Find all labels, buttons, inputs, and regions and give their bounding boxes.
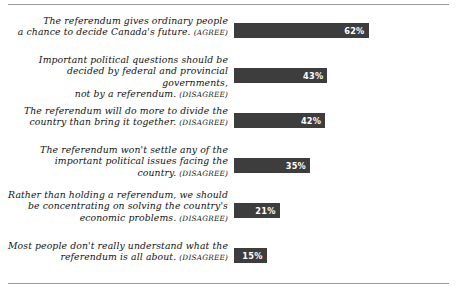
row-label-tag: (AGREE) <box>194 28 228 37</box>
row-label-line-1: Important political questions should be <box>39 54 228 65</box>
referendum-opinion-bar-chart: The referendum gives ordinary people a c… <box>0 0 457 290</box>
bar: 42% <box>234 113 325 128</box>
bar: 43% <box>234 68 327 83</box>
bar-value-label: 21% <box>255 206 279 216</box>
row-label: The referendum won't settle any of the i… <box>6 144 228 179</box>
bar-track: 15% <box>234 248 451 263</box>
bar: 15% <box>234 248 267 263</box>
bar-value-label: 62% <box>344 26 368 36</box>
row-label-line-2: important political issues facing the <box>55 155 228 166</box>
bar: 35% <box>234 158 310 173</box>
row-label-tag: (DISAGREE) <box>179 169 228 178</box>
row-label-tag: (DISAGREE) <box>179 118 228 127</box>
bar: 21% <box>234 203 280 218</box>
chart-rows: The referendum gives ordinary people a c… <box>0 14 457 284</box>
bar-value-label: 35% <box>286 161 310 171</box>
row-label: The referendum will do more to divide th… <box>6 105 228 129</box>
row-label: The referendum gives ordinary people a c… <box>6 15 228 39</box>
row-label-line-2: be concentrating on solving the country'… <box>28 200 228 211</box>
chart-row: The referendum won't settle any of the i… <box>0 149 457 194</box>
bottom-divider-rule <box>8 283 449 284</box>
bar-value-label: 15% <box>242 251 266 261</box>
bar-value-label: 43% <box>303 71 327 81</box>
bar-value-label: 42% <box>301 116 325 126</box>
row-label-tag: (DISAGREE) <box>179 253 228 262</box>
row-label-tag: (DISAGREE) <box>179 90 228 99</box>
chart-row: The referendum gives ordinary people a c… <box>0 14 457 59</box>
row-label-line-1: The referendum will do more to divide th… <box>24 105 228 116</box>
bar-track: 35% <box>234 158 451 173</box>
chart-row: Rather than holding a referendum, we sho… <box>0 194 457 239</box>
row-label-line-1: Most people don't really understand what… <box>8 240 228 251</box>
row-label-line-1: The referendum won't settle any of the <box>40 144 228 155</box>
bar-track: 21% <box>234 203 451 218</box>
row-label-line-2: referendum is all about. <box>60 251 176 262</box>
bar-track: 42% <box>234 113 451 128</box>
bar-track: 43% <box>234 68 451 83</box>
row-label-line-3: not by a referendum. <box>75 88 176 99</box>
chart-row: Important political questions should be … <box>0 59 457 104</box>
row-label: Most people don't really understand what… <box>6 240 228 264</box>
row-label-line-2: decided by federal and provincial govern… <box>67 65 228 87</box>
chart-row: The referendum will do more to divide th… <box>0 104 457 149</box>
row-label-line-2: country than bring it together. <box>29 116 176 127</box>
row-label-line-1: The referendum gives ordinary people <box>43 15 228 26</box>
row-label-line-1: Rather than holding a referendum, we sho… <box>8 189 228 200</box>
row-label-tag: (DISAGREE) <box>179 214 228 223</box>
top-divider-rule <box>8 4 449 5</box>
row-label-line-3: country. <box>138 167 177 178</box>
row-label-line-2: a chance to decide Canada's future. <box>18 26 191 37</box>
bar-track: 62% <box>234 23 451 38</box>
row-label: Rather than holding a referendum, we sho… <box>6 189 228 224</box>
row-label-line-3: economic problems. <box>80 212 177 223</box>
bar: 62% <box>234 23 369 38</box>
chart-row: Most people don't really understand what… <box>0 239 457 284</box>
row-label: Important political questions should be … <box>6 54 228 101</box>
